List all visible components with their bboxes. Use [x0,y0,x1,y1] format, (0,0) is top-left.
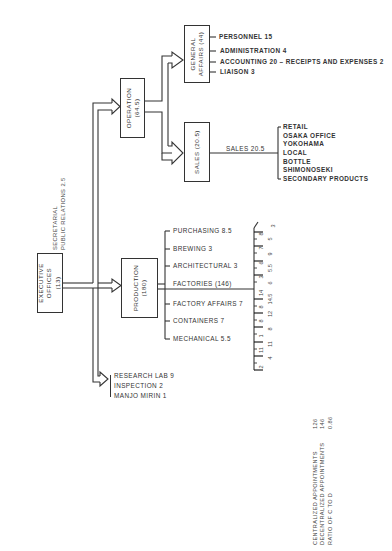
factory-value-a: 6 [258,261,264,264]
production-item: MECHANICAL 5.5 [173,336,231,342]
general-affairs-item: PERSONNEL 15 [219,34,272,40]
factory-value-b: 8 [267,327,273,330]
sales-link-label: SALES 20.5 [226,146,265,152]
factory-value-b: 9 [267,252,273,255]
production-label: PRODUCTION (180) [131,265,148,312]
factory-value-b: 5.5 [267,264,273,272]
executive-side-units: SECRETARIAL PUBLIC RELATIONS 2.5 [52,177,67,250]
production-box[interactable]: PRODUCTION (180) [121,258,158,318]
production-item: FACTORIES (146) [173,281,232,287]
factory-value-b: 12 [267,311,273,317]
factory-value-a: 3 [258,275,264,278]
production-item: BREWING 3 [173,246,212,252]
summary-row: RATIO OF C TO D0.86 [327,417,334,546]
production-item: PURCHASING 8.5 [173,228,232,234]
executive-offices-box[interactable]: EXECUTIVE OFFICES (13) [37,253,63,313]
sales-box[interactable]: SALES (20.5) [184,122,210,182]
factory-value-b: 4 [267,356,273,359]
factory-value-a: 8 [258,232,264,235]
factory-value-a: 11 [258,347,264,353]
other-unit-item: MANJO MIRIN 1 [114,393,167,399]
factory-value-b: 14.5 [267,294,273,305]
summary-row: DECENTRALIZED APPOINTMENTS146 [319,417,326,546]
factory-value-b: 11 [267,341,273,347]
sales-item: LOCAL [283,150,307,156]
summary-table: CENTRALIZED APPOINTMENTS126 DECENTRALIZE… [312,417,334,546]
other-unit-item: RESEARCH LAB 9 [114,373,174,379]
sales-item: YOKOHAMA [283,141,324,147]
factory-value-a: 2 [258,365,264,368]
general-affairs-box[interactable]: GENERAL AFFAIRS (44) [184,25,210,83]
factory-top-value: 3 [270,224,276,227]
general-affairs-item: ACCOUNTING 20 – RECEIPTS AND EXPENSES 2 [220,59,384,65]
operation-box[interactable]: OPERATION (64.5) [120,78,145,138]
sales-label: SALES (20.5) [193,130,201,174]
general-affairs-label: GENERAL AFFAIRS (44) [189,32,206,77]
factory-value-a: 8 [258,305,264,308]
factory-value-a: 14 [258,290,264,296]
production-item: ARCHITECTURAL 3 [173,263,238,269]
general-affairs-item: ADMINISTRATION 4 [220,48,287,54]
factory-value-a: 8 [258,319,264,322]
sales-item: SECONDARY PRODUCTS [283,176,368,182]
factory-value-b: 6 [267,281,273,284]
production-item: CONTAINERS 7 [173,318,225,324]
factory-value-b: 5 [267,237,273,240]
sales-item: BOTTLE [283,159,311,165]
sales-item: OSAKA OFFICE [283,133,336,139]
other-unit-item: INSPECTION 2 [114,383,163,389]
operation-label: OPERATION (64.5) [124,88,141,128]
general-affairs-item: LIAISON 3 [220,69,255,75]
sales-item: SHIMONOSEKI [283,167,333,173]
summary-row: CENTRALIZED APPOINTMENTS126 [312,417,319,546]
production-item: FACTORY AFFAIRS 7 [173,301,243,307]
executive-offices-label: EXECUTIVE OFFICES (13) [37,263,62,303]
factory-value-a: 7 [258,246,264,249]
factory-value-a: 1 [258,334,264,337]
sales-item: RETAIL [283,124,308,130]
